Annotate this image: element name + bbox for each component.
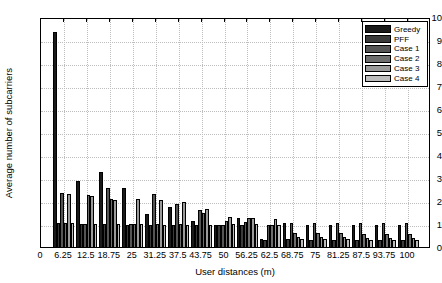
legend-label: Case 1: [394, 44, 419, 53]
legend-item: Case 2: [365, 54, 425, 64]
legend-swatch: [365, 25, 391, 33]
x-tick-mark-top: [315, 18, 316, 22]
x-tick-mark-top: [63, 18, 64, 22]
grid-line-vertical: [179, 19, 180, 247]
bar: [140, 224, 144, 247]
x-tick-mark: [155, 244, 156, 248]
legend-label: Case 4: [394, 74, 419, 83]
x-tick-mark: [86, 244, 87, 248]
x-tick-mark: [201, 244, 202, 248]
x-axis-label: User distances (m): [40, 266, 430, 277]
x-tick-mark: [292, 244, 293, 248]
x-tick-mark-top: [178, 18, 179, 22]
bar: [323, 239, 327, 247]
x-tick-mark-top: [338, 18, 339, 22]
bar: [369, 240, 373, 247]
x-tick-mark-top: [109, 18, 110, 22]
legend-label: Case 2: [394, 54, 419, 63]
bar: [53, 32, 57, 247]
x-tick-mark: [338, 244, 339, 248]
grid-line-vertical: [339, 19, 340, 247]
grid-line-horizontal: [41, 111, 429, 112]
x-tick-mark: [269, 244, 270, 248]
bar: [300, 239, 304, 247]
bar: [346, 239, 350, 247]
grid-line-vertical: [316, 19, 317, 247]
x-tick-mark-top: [246, 18, 247, 22]
grid-line-vertical: [293, 19, 294, 247]
chart-legend: GreedyPFFCase 1Case 2Case 3Case 4: [362, 21, 428, 87]
legend-item: Greedy: [365, 24, 425, 34]
bar: [209, 225, 213, 247]
x-tick-mark-top: [86, 18, 87, 22]
bar: [255, 224, 259, 247]
x-tick-mark: [384, 244, 385, 248]
legend-label: Case 3: [394, 64, 419, 73]
legend-swatch: [365, 65, 391, 73]
bar: [232, 224, 236, 247]
grid-line-vertical: [225, 19, 226, 247]
grid-line-vertical: [133, 19, 134, 247]
chart-figure: Average number of subcarriers 0123456789…: [0, 0, 442, 283]
bar: [71, 223, 75, 247]
x-tick-mark-top: [132, 18, 133, 22]
legend-label: PFF: [394, 35, 409, 44]
legend-swatch: [365, 75, 391, 83]
legend-item: Case 1: [365, 44, 425, 54]
x-tick-mark: [63, 244, 64, 248]
grid-line-vertical: [247, 19, 248, 247]
bar: [117, 224, 121, 247]
bar: [392, 240, 396, 247]
bar: [277, 225, 281, 247]
x-tick-mark: [315, 244, 316, 248]
x-tick-mark: [224, 244, 225, 248]
x-tick-mark: [132, 244, 133, 248]
legend-label: Greedy: [394, 25, 420, 34]
grid-line-vertical: [156, 19, 157, 247]
bar: [186, 225, 190, 247]
grid-line-horizontal: [41, 134, 429, 135]
grid-line-horizontal: [41, 157, 429, 158]
legend-swatch: [365, 35, 391, 43]
legend-item: Case 3: [365, 64, 425, 74]
legend-swatch: [365, 45, 391, 53]
x-tick-mark: [361, 244, 362, 248]
y-axis-label: Average number of subcarriers: [2, 18, 16, 248]
bar: [163, 225, 167, 247]
bar: [415, 240, 419, 247]
x-tick-mark-top: [269, 18, 270, 22]
x-tick-mark-top: [201, 18, 202, 22]
legend-item: Case 4: [365, 74, 425, 84]
grid-line-vertical: [270, 19, 271, 247]
x-tick-mark: [178, 244, 179, 248]
x-tick-mark: [246, 244, 247, 248]
x-tick-label: 100: [387, 250, 427, 261]
bar: [94, 224, 98, 247]
x-tick-mark: [407, 244, 408, 248]
grid-line-horizontal: [41, 88, 429, 89]
x-tick-mark-top: [292, 18, 293, 22]
legend-item: PFF: [365, 34, 425, 44]
x-tick-mark-top: [155, 18, 156, 22]
x-tick-mark-top: [224, 18, 225, 22]
legend-swatch: [365, 55, 391, 63]
grid-line-vertical: [64, 19, 65, 247]
x-tick-mark: [109, 244, 110, 248]
